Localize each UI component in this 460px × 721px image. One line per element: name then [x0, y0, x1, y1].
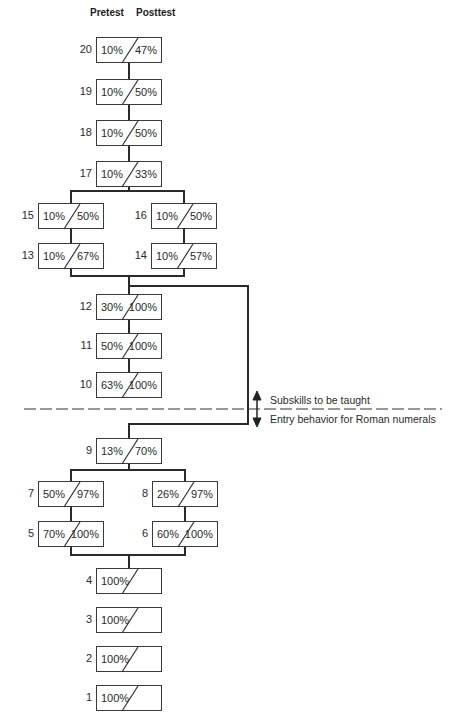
skill-box-6: 60%100% [152, 521, 218, 547]
skill-number: 2 [72, 652, 92, 664]
pretest-score: 26% [157, 488, 179, 500]
skill-box-11: 50%100% [96, 333, 162, 359]
skill-box-16: 10%50% [151, 203, 217, 229]
posttest-score: 50% [135, 86, 157, 98]
skill-number: 15 [14, 209, 34, 221]
pretest-score: 100% [101, 692, 129, 704]
skill-number: 19 [72, 85, 92, 97]
pretest-score: 63% [101, 379, 123, 391]
skill-number: 14 [127, 249, 147, 261]
pretest-score: 70% [43, 528, 65, 540]
skill-number: 13 [14, 249, 34, 261]
posttest-header: Posttest [136, 7, 175, 18]
skill-box-9: 13%70% [96, 438, 162, 464]
skill-box-20: 10%47% [96, 37, 162, 63]
skill-number: 5 [14, 527, 34, 539]
skill-number: 16 [127, 209, 147, 221]
skill-box-7: 50%97% [38, 481, 104, 507]
posttest-score: 50% [190, 210, 212, 222]
posttest-score: 57% [190, 250, 212, 262]
posttest-score: 50% [77, 210, 99, 222]
pretest-score: 10% [101, 168, 123, 180]
pretest-score: 100% [101, 614, 129, 626]
skill-number: 1 [72, 691, 92, 703]
skill-box-14: 10%57% [151, 243, 217, 269]
pretest-score: 50% [43, 488, 65, 500]
posttest-score: 97% [77, 488, 99, 500]
posttest-score: 67% [77, 250, 99, 262]
instructional-analysis-diagram: Pretest Posttest 2010%47%1910%50%1810%50… [0, 0, 460, 721]
posttest-score: 100% [71, 528, 99, 540]
pretest-score: 10% [156, 250, 178, 262]
connector-17-16 [129, 191, 184, 203]
skill-number: 6 [128, 527, 148, 539]
skill-number: 10 [72, 378, 92, 390]
skill-box-1: 100% [96, 685, 162, 711]
pretest-score: 30% [101, 301, 123, 313]
skill-box-3: 100% [96, 607, 162, 633]
connector-13-14-join [71, 269, 184, 276]
subskills-label: Subskills to be taught [270, 394, 370, 406]
posttest-score: 33% [135, 168, 157, 180]
skill-number: 11 [72, 339, 92, 351]
connector-5-6-join [71, 547, 185, 555]
pretest-score: 10% [156, 210, 178, 222]
skill-box-17: 10%33% [96, 161, 162, 187]
connector-9-7 [71, 464, 129, 481]
skill-box-13: 10%67% [38, 243, 104, 269]
skill-box-4: 100% [96, 568, 162, 594]
skill-number: 8 [128, 487, 148, 499]
posttest-score: 97% [191, 488, 213, 500]
pretest-score: 100% [101, 575, 129, 587]
skill-box-2: 100% [96, 646, 162, 672]
skill-number: 18 [72, 126, 92, 138]
posttest-score: 47% [135, 44, 157, 56]
posttest-score: 70% [135, 445, 157, 457]
skill-box-10: 63%100% [96, 372, 162, 398]
pretest-score: 50% [101, 340, 123, 352]
posttest-score: 100% [129, 340, 157, 352]
pretest-score: 10% [101, 127, 123, 139]
skill-box-5: 70%100% [38, 521, 104, 547]
skill-number: 20 [72, 43, 92, 55]
pretest-score: 13% [101, 445, 123, 457]
skill-number: 7 [14, 487, 34, 499]
pretest-score: 60% [157, 528, 179, 540]
posttest-score: 100% [129, 301, 157, 313]
posttest-score: 100% [185, 528, 213, 540]
skill-box-15: 10%50% [38, 203, 104, 229]
pretest-score: 10% [101, 44, 123, 56]
skill-number: 4 [72, 574, 92, 586]
connector-17-15 [71, 187, 129, 203]
pretest-score: 10% [101, 86, 123, 98]
skill-box-19: 10%50% [96, 79, 162, 105]
pretest-score: 10% [43, 250, 65, 262]
posttest-score: 100% [129, 379, 157, 391]
skill-box-18: 10%50% [96, 120, 162, 146]
pretest-header: Pretest [90, 7, 124, 18]
connector-9-8 [129, 470, 185, 481]
skill-box-12: 30%100% [96, 294, 162, 320]
skill-number: 3 [72, 613, 92, 625]
skill-number: 12 [72, 300, 92, 312]
pretest-score: 10% [43, 210, 65, 222]
pretest-score: 100% [101, 653, 129, 665]
entry-behavior-label: Entry behavior for Roman numerals [270, 413, 436, 425]
posttest-score: 50% [135, 127, 157, 139]
connector-lines [0, 0, 460, 721]
skill-number: 9 [72, 444, 92, 456]
skill-number: 17 [72, 167, 92, 179]
skill-box-8: 26%97% [152, 481, 218, 507]
